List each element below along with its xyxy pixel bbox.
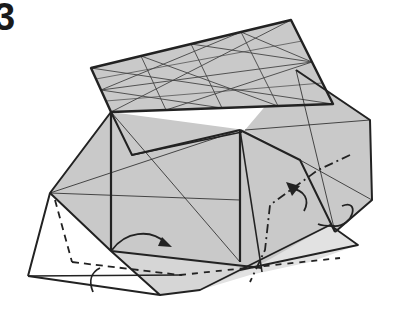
edge-line	[28, 275, 182, 276]
origami-diagram	[0, 0, 407, 318]
